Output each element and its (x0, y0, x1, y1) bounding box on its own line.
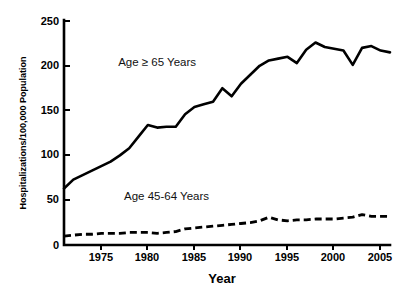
series-line-age-65-plus (64, 43, 390, 189)
line-chart: Hospitalizations/100,000 Population 250 … (0, 0, 396, 296)
x-tick-label-1995: 1995 (275, 251, 299, 263)
x-tick-label-1975: 1975 (89, 251, 113, 263)
series-label-age-65-plus: Age ≥ 65 Years (118, 56, 196, 68)
y-tick-label-250: 250 (41, 15, 59, 27)
axis-lines (64, 20, 390, 245)
series-line-age-45-64 (64, 215, 390, 237)
x-tick-label-1990: 1990 (228, 251, 252, 263)
x-tick-label-2000: 2000 (321, 251, 345, 263)
chart-container: Hospitalizations/100,000 Population 250 … (0, 0, 396, 296)
x-tick-label-1980: 1980 (135, 251, 159, 263)
y-tick-label-150: 150 (41, 104, 59, 116)
y-tick-label-0: 0 (53, 239, 59, 251)
y-tick-label-50: 50 (47, 193, 59, 205)
y-axis-title: Hospitalizations/100,000 Population (18, 56, 28, 209)
x-axis-title: Year (208, 271, 235, 286)
series-label-age-45-64: Age 45-64 Years (124, 190, 209, 202)
x-tick-label-1985: 1985 (182, 251, 206, 263)
y-tick-labels: 250 200 150 100 50 0 (41, 15, 59, 251)
y-tick-label-200: 200 (41, 59, 59, 71)
y-tick-label-100: 100 (41, 148, 59, 160)
x-tick-labels: 1975 1980 1985 1990 1995 2000 2005 (89, 251, 392, 263)
x-tick-label-2005: 2005 (368, 251, 392, 263)
